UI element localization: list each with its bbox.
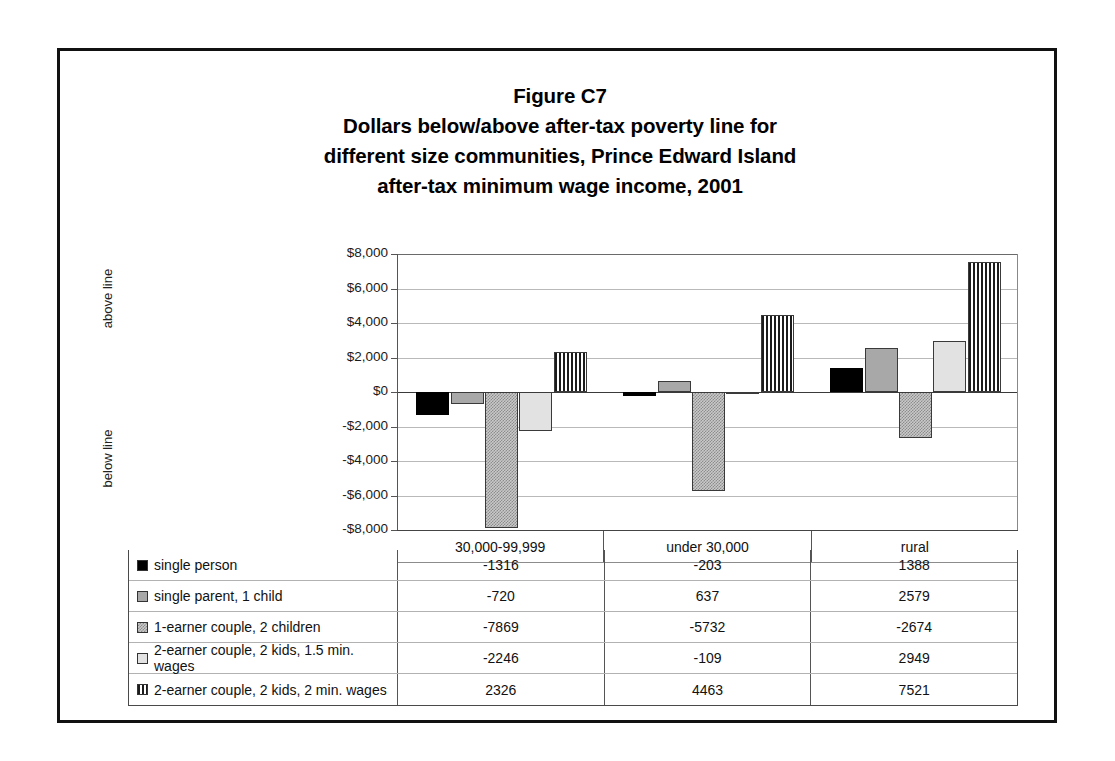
- bar: [416, 392, 449, 415]
- table-value-cell: -5732: [605, 612, 812, 642]
- bar: [623, 392, 656, 396]
- bar: [761, 315, 794, 392]
- y-axis-tick-label: $0: [312, 383, 388, 398]
- y-axis-tick-label: -$2,000: [312, 418, 388, 433]
- table-value-cell: -2246: [398, 643, 605, 673]
- y-axis-tick-label: $2,000: [312, 349, 388, 364]
- gridline: [398, 358, 1017, 359]
- legend-swatch-icon: [137, 622, 148, 633]
- figure-frame: Figure C7 Dollars below/above after-tax …: [57, 48, 1057, 723]
- gridline: [398, 254, 1017, 255]
- legend-swatch-icon: [137, 684, 148, 695]
- gridline: [398, 323, 1017, 324]
- table-row: single parent, 1 child-7206372579: [129, 581, 1017, 612]
- bar: [692, 392, 725, 491]
- legend-cell: 2-earner couple, 2 kids, 2 min. wages: [129, 674, 398, 705]
- table-value-cell: 1388: [811, 550, 1017, 580]
- legend-swatch-icon: [137, 560, 148, 571]
- bar: [865, 348, 898, 392]
- y-axis-tick-label: $8,000: [312, 245, 388, 260]
- table-value-cell: -7869: [398, 612, 605, 642]
- legend-swatch-icon: [137, 591, 148, 602]
- bar: [519, 392, 552, 431]
- table-value-cell: 7521: [811, 674, 1017, 705]
- table-value-cell: 2579: [811, 581, 1017, 611]
- table-row: 2-earner couple, 2 kids, 1.5 min. wages-…: [129, 643, 1017, 674]
- bar: [968, 262, 1001, 392]
- legend-cell: single parent, 1 child: [129, 581, 398, 611]
- bar: [830, 368, 863, 392]
- y-axis-tick-label: $4,000: [312, 314, 388, 329]
- bar: [451, 392, 484, 404]
- table-row: 1-earner couple, 2 children-7869-5732-26…: [129, 612, 1017, 643]
- y-axis-tick-label: -$6,000: [312, 487, 388, 502]
- table-value-cell: 4463: [605, 674, 812, 705]
- chart-plot-area: [397, 254, 1018, 530]
- table-row: single person-1316-2031388: [129, 550, 1017, 581]
- legend-label: 2-earner couple, 2 kids, 1.5 min. wages: [154, 642, 397, 674]
- bar: [899, 392, 932, 438]
- legend-label: single parent, 1 child: [154, 588, 282, 604]
- legend-label: single person: [154, 557, 237, 573]
- y-axis-tick-label: $6,000: [312, 280, 388, 295]
- table-value-cell: -2674: [811, 612, 1017, 642]
- bar: [658, 381, 691, 392]
- legend-cell: single person: [129, 550, 398, 580]
- table-value-cell: -720: [398, 581, 605, 611]
- legend-cell: 2-earner couple, 2 kids, 1.5 min. wages: [129, 643, 398, 673]
- bar: [554, 352, 587, 392]
- bar: [485, 392, 518, 528]
- bar: [933, 341, 966, 392]
- table-value-cell: 2949: [811, 643, 1017, 673]
- legend-cell: 1-earner couple, 2 children: [129, 612, 398, 642]
- legend-swatch-icon: [137, 653, 148, 664]
- gridline: [398, 289, 1017, 290]
- data-table: single person-1316-2031388single parent,…: [128, 550, 1018, 706]
- legend-label: 2-earner couple, 2 kids, 2 min. wages: [154, 682, 387, 698]
- table-value-cell: 2326: [398, 674, 605, 705]
- bar: [726, 392, 759, 394]
- table-row: 2-earner couple, 2 kids, 2 min. wages232…: [129, 674, 1017, 705]
- legend-label: 1-earner couple, 2 children: [154, 619, 321, 635]
- table-value-cell: -203: [605, 550, 812, 580]
- y-axis-tick-label: -$8,000: [312, 521, 388, 536]
- table-value-cell: -1316: [398, 550, 605, 580]
- table-value-cell: -109: [605, 643, 812, 673]
- y-axis-tick-label: -$4,000: [312, 452, 388, 467]
- table-value-cell: 637: [605, 581, 812, 611]
